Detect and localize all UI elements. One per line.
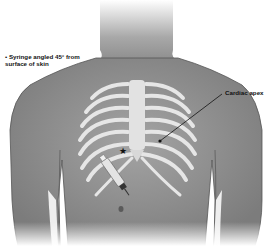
- pericardiocentesis-illustration: ★ • Syringe angled 45° from surface of s…: [0, 0, 275, 246]
- torso-drawing: ★: [0, 0, 275, 246]
- insertion-star-icon: ★: [119, 146, 127, 156]
- syringe-angle-label: • Syringe angled 45° from surface of ski…: [5, 53, 85, 67]
- navel: [119, 206, 124, 212]
- cardiac-apex-label: Cardiac apex: [225, 89, 264, 96]
- neck: [96, 0, 180, 62]
- sternum: [129, 80, 145, 150]
